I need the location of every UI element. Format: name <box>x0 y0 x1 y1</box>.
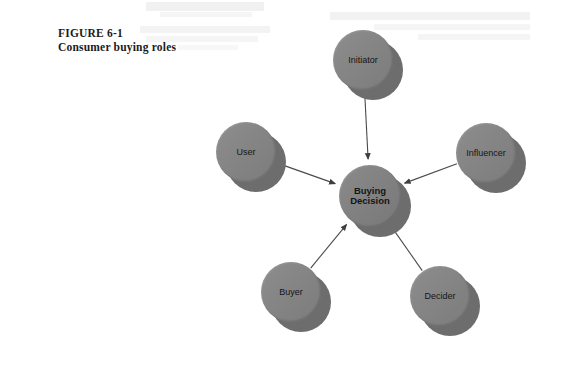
node-buyer[interactable]: Buyer <box>261 262 321 322</box>
node-face-disc: Buying Decision <box>339 165 401 227</box>
node-face-disc: Buyer <box>261 262 321 322</box>
edge-influencer-to-buying-decision <box>405 164 457 183</box>
node-initiator[interactable]: Initiator <box>333 30 393 90</box>
node-label: Initiator <box>348 55 378 66</box>
node-buying-decision[interactable]: Buying Decision <box>339 165 401 227</box>
node-label: Decider <box>424 291 455 302</box>
node-face-disc: Initiator <box>333 30 393 90</box>
buying-roles-diagram: InitiatorInfluencerDeciderBuyerUserBuyin… <box>0 0 573 376</box>
node-face-disc: User <box>216 122 276 182</box>
figure-page: FIGURE 6-1Consumer buying roles Initiato… <box>0 0 573 376</box>
edge-decider-to-buying-decision <box>391 226 422 270</box>
edge-buyer-to-buying-decision <box>311 225 347 268</box>
node-face-disc: Influencer <box>456 123 516 183</box>
node-label: Buying Decision <box>350 186 390 207</box>
node-label: User <box>236 147 255 158</box>
node-user[interactable]: User <box>216 122 276 182</box>
node-label: Influencer <box>466 148 506 159</box>
node-influencer[interactable]: Influencer <box>456 123 516 183</box>
node-label: Buyer <box>279 287 303 298</box>
node-face-disc: Decider <box>410 266 470 326</box>
node-decider[interactable]: Decider <box>410 266 470 326</box>
edge-initiator-to-buying-decision <box>365 91 369 159</box>
